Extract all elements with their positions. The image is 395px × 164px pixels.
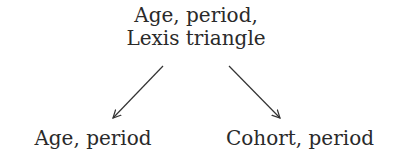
arrow-to-cohort-period (229, 66, 280, 118)
arrow-to-age-period (113, 66, 163, 118)
node-cohort-period: Cohort, period (215, 127, 385, 150)
node-age-period: Age, period (18, 127, 168, 150)
diagram-canvas: Age, period, Lexis triangle Age, period … (0, 0, 395, 164)
